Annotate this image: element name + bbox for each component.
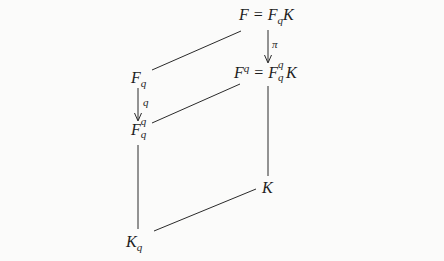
left-mid-sub: q <box>141 129 147 140</box>
equals-sign: = <box>254 64 263 81</box>
left-mid-sup: q <box>141 116 147 127</box>
edge-left-mid-to-mid-right <box>152 84 240 123</box>
node-left-mid-supsub: qq <box>141 125 149 135</box>
node-mid-right-sup: q <box>244 62 250 74</box>
node-mid-right-base: F <box>234 64 244 81</box>
node-right-bottom: K <box>262 180 273 196</box>
node-top-base: F <box>239 6 249 23</box>
arrow-label-pi: π <box>272 38 278 50</box>
edge-bottom-left-to-right-bottom <box>154 189 256 231</box>
node-left-top-sub: q <box>141 77 147 89</box>
arrow-label-q: q <box>143 96 149 108</box>
edge-left-top-to-top <box>152 31 241 70</box>
node-mid-right: Fq=FqqK <box>234 65 297 81</box>
diagram-edges <box>0 0 444 261</box>
node-bottom-left-sub: q <box>137 241 143 253</box>
node-mid-right-rhs-supsub: qq <box>278 68 286 78</box>
node-top-rhs-base: F <box>268 6 278 23</box>
node-left-mid-base: F <box>131 121 141 138</box>
node-top-rhs-tail: K <box>283 6 294 23</box>
node-bottom-left: Kq <box>126 234 142 250</box>
rhs-sub: q <box>278 72 284 83</box>
node-left-mid: Fqq <box>131 122 149 138</box>
node-mid-right-rhs-tail: K <box>286 64 297 81</box>
node-left-top: Fq <box>131 70 146 86</box>
node-right-bottom-base: K <box>262 179 273 196</box>
equals-sign: = <box>254 6 263 23</box>
node-left-top-base: F <box>131 69 141 86</box>
node-bottom-left-base: K <box>126 233 137 250</box>
node-mid-right-rhs-base: F <box>268 64 278 81</box>
node-top: F=FqK <box>239 7 294 23</box>
rhs-sup: q <box>278 59 284 70</box>
